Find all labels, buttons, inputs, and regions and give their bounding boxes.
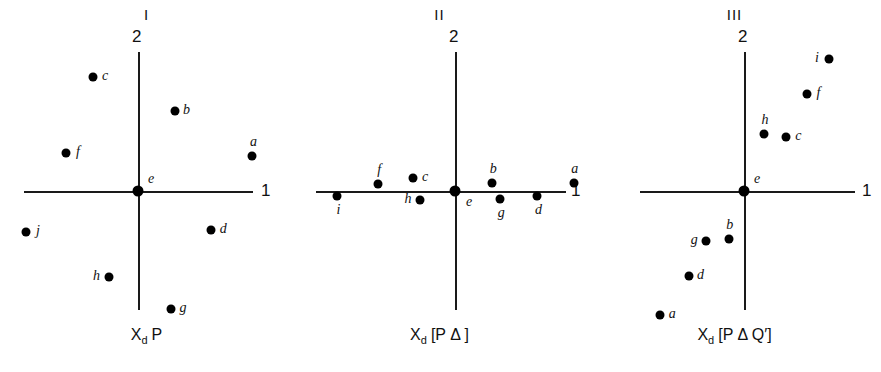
data-point-label-h: h bbox=[762, 113, 769, 127]
data-point-i bbox=[333, 191, 342, 200]
data-point-a bbox=[569, 178, 578, 187]
data-point-label-d: d bbox=[535, 203, 542, 217]
data-point-label-a: a bbox=[250, 135, 257, 149]
data-point-c bbox=[409, 174, 418, 183]
panel-3-plot-area: 1 2 ifhcebgda bbox=[588, 0, 881, 372]
panel-3: III 1 2 ifhcebgda Xd[P Δ Q′] bbox=[588, 0, 881, 372]
data-point-label-h: h bbox=[404, 192, 411, 206]
data-point-c bbox=[89, 72, 98, 81]
data-point-label-f: f bbox=[377, 163, 381, 177]
panel-1-yaxis-label: 2 bbox=[132, 28, 141, 45]
panel-1-plot-area: 1 2 cbafejdhg bbox=[0, 0, 293, 372]
data-point-f bbox=[374, 179, 383, 188]
data-point-a bbox=[248, 151, 257, 160]
data-point-label-e: e bbox=[148, 172, 154, 186]
data-point-label-d: d bbox=[697, 268, 704, 282]
data-point-label-a: a bbox=[571, 162, 578, 176]
panel-3-yaxis-label: 2 bbox=[738, 28, 747, 45]
data-point-d bbox=[207, 225, 216, 234]
panel-3-axis-vertical bbox=[744, 52, 746, 310]
panel-2-plot-area: 1 2 ifchebgda bbox=[293, 0, 586, 372]
data-point-i bbox=[824, 54, 833, 63]
data-point-b bbox=[724, 235, 733, 244]
data-point-f bbox=[62, 149, 71, 158]
data-point-label-f: f bbox=[817, 86, 821, 100]
panel-3-xaxis-label: 1 bbox=[862, 182, 871, 199]
data-point-label-e: e bbox=[754, 172, 760, 186]
data-point-label-j: j bbox=[36, 224, 40, 238]
data-point-f bbox=[802, 90, 811, 99]
data-point-g bbox=[702, 236, 711, 245]
data-point-g bbox=[167, 305, 176, 314]
data-point-label-g: g bbox=[498, 206, 505, 220]
data-point-label-b: b bbox=[726, 218, 733, 232]
data-point-label-h: h bbox=[93, 269, 100, 283]
panel-1-axis-vertical bbox=[138, 52, 140, 310]
data-point-h bbox=[104, 273, 113, 282]
panel-2-axis-horizontal bbox=[316, 191, 566, 193]
panel-2-yaxis-label: 2 bbox=[449, 28, 458, 45]
data-point-b bbox=[488, 178, 497, 187]
panel-2-caption: Xd[P Δ ] bbox=[293, 326, 586, 346]
data-point-d bbox=[684, 271, 693, 280]
data-point-label-b: b bbox=[183, 103, 190, 117]
data-point-c bbox=[782, 132, 791, 141]
data-point-label-g: g bbox=[691, 233, 698, 247]
data-point-h bbox=[415, 196, 424, 205]
panel-1-caption: XdP bbox=[0, 326, 293, 346]
data-point-label-i: i bbox=[337, 203, 341, 217]
data-point-g bbox=[496, 195, 505, 204]
panel-2: II 1 2 ifchebgda Xd[P Δ ] bbox=[293, 0, 586, 372]
data-point-label-g: g bbox=[180, 301, 187, 315]
data-point-label-d: d bbox=[220, 222, 227, 236]
panel-3-caption: Xd[P Δ Q′] bbox=[588, 326, 881, 346]
data-point-label-c: c bbox=[795, 129, 801, 143]
data-point-e bbox=[133, 186, 144, 197]
data-point-label-i: i bbox=[815, 51, 819, 65]
data-point-a bbox=[656, 310, 665, 319]
panel-1: I 1 2 cbafejdhg XdP bbox=[0, 0, 293, 372]
data-point-label-a: a bbox=[669, 307, 676, 321]
figure-three-scatter-panels: I 1 2 cbafejdhg XdP II 1 2 ifchebgda Xd[… bbox=[0, 0, 881, 372]
data-point-label-f: f bbox=[76, 145, 80, 159]
panel-1-xaxis-label: 1 bbox=[261, 182, 270, 199]
data-point-label-e: e bbox=[466, 195, 472, 209]
data-point-label-c: c bbox=[102, 69, 108, 83]
data-point-h bbox=[760, 130, 769, 139]
panel-2-axis-vertical bbox=[455, 52, 457, 310]
data-point-b bbox=[170, 106, 179, 115]
data-point-j bbox=[21, 228, 30, 237]
data-point-e bbox=[450, 186, 461, 197]
data-point-label-c: c bbox=[422, 170, 428, 184]
data-point-d bbox=[533, 191, 542, 200]
data-point-label-b: b bbox=[490, 162, 497, 176]
data-point-e bbox=[739, 186, 750, 197]
